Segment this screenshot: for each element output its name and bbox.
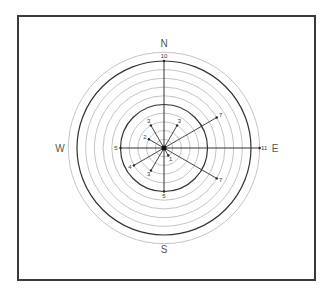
vector-magnitude-label: 10 bbox=[161, 53, 168, 59]
vector-magnitude-label: 1 bbox=[169, 156, 173, 162]
vector-magnitude-label: 3 bbox=[147, 118, 151, 124]
vector-tip-marker bbox=[163, 60, 165, 62]
vector-tip-marker bbox=[133, 164, 135, 166]
vector-120: 7 bbox=[164, 148, 223, 183]
vector-tip-marker bbox=[176, 124, 178, 126]
vector-magnitude-label: 3 bbox=[147, 171, 151, 177]
vector-270: 5 bbox=[114, 145, 164, 151]
vector-magnitude-label: 7 bbox=[219, 177, 223, 183]
vector-magnitude-label: 3 bbox=[178, 118, 182, 124]
vector-tip-marker bbox=[216, 116, 218, 118]
polar-diagram: 10371171534523 N E S W bbox=[0, 0, 328, 294]
vector-magnitude-label: 4 bbox=[128, 164, 132, 170]
east-label: E bbox=[272, 143, 279, 154]
vector-tip-marker bbox=[216, 177, 218, 179]
vector-magnitude-label: 5 bbox=[114, 145, 118, 151]
west-label: W bbox=[55, 143, 65, 154]
vector-30: 3 bbox=[164, 118, 182, 148]
north-label: N bbox=[160, 38, 167, 49]
vector-tip-marker bbox=[119, 147, 121, 149]
vector-magnitude-label: 2 bbox=[143, 134, 147, 140]
vector-magnitude-label: 7 bbox=[219, 112, 223, 118]
vector-tip-marker bbox=[148, 138, 150, 140]
vector-0: 10 bbox=[161, 53, 168, 148]
south-label: S bbox=[161, 244, 168, 255]
vector-magnitude-label: 11 bbox=[261, 145, 268, 151]
vector-magnitude-label: 5 bbox=[162, 193, 166, 199]
vector-tip-marker bbox=[150, 124, 152, 126]
origin-point bbox=[162, 146, 167, 151]
